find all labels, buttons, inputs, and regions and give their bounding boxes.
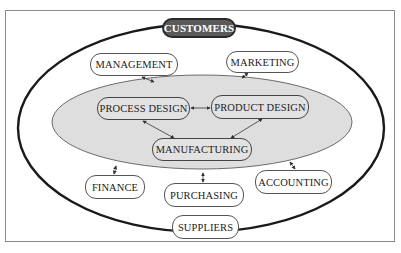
node-management: MANAGEMENT <box>90 53 178 76</box>
node-suppliers-label: SUPPLIERS <box>178 222 233 233</box>
node-suppliers: SUPPLIERS <box>172 215 239 239</box>
arrow-accounting-core <box>290 162 295 169</box>
node-process-design-label: PROCESS DESIGN <box>99 103 187 114</box>
node-finance: FINANCE <box>85 175 145 199</box>
node-management-label: MANAGEMENT <box>96 59 173 70</box>
node-manufacturing-label: MANUFACTURING <box>156 144 249 155</box>
node-process-design: PROCESS DESIGN <box>97 97 190 120</box>
node-purchasing: PURCHASING <box>164 183 244 207</box>
node-purchasing-label: PURCHASING <box>170 190 238 201</box>
node-marketing: MARKETING <box>226 51 299 73</box>
node-accounting-label: ACCOUNTING <box>258 177 328 188</box>
node-customers: CUSTOMERS <box>162 18 236 38</box>
node-accounting: ACCOUNTING <box>255 170 332 194</box>
node-manufacturing: MANUFACTURING <box>152 138 252 161</box>
node-product-design-label: PRODUCT DESIGN <box>214 102 305 113</box>
node-customers-label: CUSTOMERS <box>164 22 234 34</box>
arrow-finance-core <box>114 166 116 174</box>
node-finance-label: FINANCE <box>92 182 138 193</box>
node-product-design: PRODUCT DESIGN <box>211 95 309 119</box>
node-marketing-label: MARKETING <box>231 57 295 68</box>
